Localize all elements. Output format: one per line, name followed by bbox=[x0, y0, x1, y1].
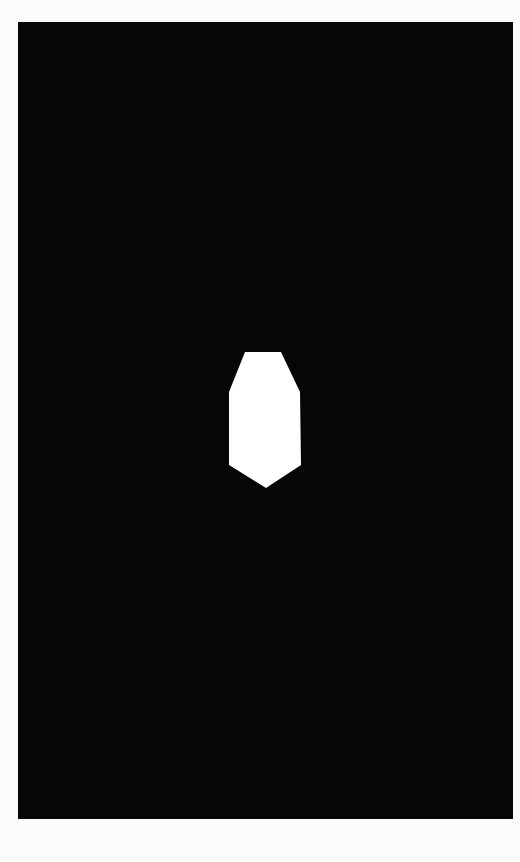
white-silhouette-shape bbox=[229, 352, 301, 488]
image-frame bbox=[0, 0, 520, 862]
silhouette-layer bbox=[0, 0, 520, 862]
